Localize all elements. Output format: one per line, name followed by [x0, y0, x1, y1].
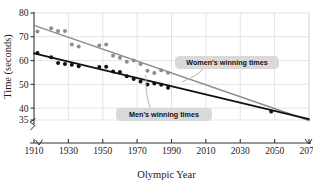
data-point [118, 70, 122, 74]
data-point [159, 68, 163, 72]
data-point [166, 86, 170, 90]
data-point [152, 81, 156, 85]
data-point [125, 60, 129, 64]
x-axis-break-zigzag [36, 140, 43, 146]
x-axis-tick-label: 2030 [231, 146, 250, 156]
olympic-winning-times-chart: 3540506070801910193019501970199020102030… [0, 0, 313, 184]
y-axis-tick-label: 80 [19, 8, 29, 18]
data-point [152, 71, 156, 75]
x-axis-tick-label: 2070 [300, 146, 314, 156]
data-point [159, 83, 163, 87]
x-axis-tick-label: 2050 [265, 146, 284, 156]
y-axis-tick-label: 50 [19, 80, 29, 90]
data-point [70, 42, 74, 46]
data-point [70, 63, 74, 67]
x-axis-tick-label: 1990 [162, 146, 181, 156]
x-axis: 191019301950197019902010203020502070 [25, 139, 314, 156]
data-point [97, 65, 101, 69]
data-point [49, 55, 53, 59]
women-callout[interactable]: Women's winning times [175, 56, 279, 82]
y-axis-tick-label: 70 [19, 32, 29, 42]
data-point [166, 71, 170, 75]
data-point [132, 59, 136, 63]
data-point [56, 61, 60, 65]
callout-label: Women's winning times [186, 58, 267, 67]
data-point [77, 64, 81, 68]
y-axis-tick-label: 60 [19, 56, 29, 66]
chart-canvas: 3540506070801910193019501970199020102030… [0, 0, 313, 184]
x-axis-title: Olympic Year [137, 169, 196, 180]
data-point [63, 62, 67, 66]
data-point [49, 26, 53, 30]
intersection-point-marker [269, 110, 273, 114]
y-axis: 354050607080 [19, 8, 36, 130]
data-point [111, 54, 115, 58]
data-point [77, 45, 81, 49]
data-point [56, 29, 60, 33]
data-point [104, 42, 108, 46]
callout-label: Men's winning times [129, 110, 199, 119]
data-point [145, 69, 149, 73]
y-axis-title: Time (seconds) [2, 34, 14, 99]
data-point [35, 51, 39, 55]
x-axis-tick-label: 1970 [128, 146, 147, 156]
x-axis-tick-label: 2010 [196, 146, 215, 156]
data-point [104, 65, 108, 69]
x-axis-tick-label: 1950 [93, 146, 112, 156]
data-point [139, 79, 143, 83]
data-point [125, 74, 129, 78]
data-point [97, 44, 101, 48]
x-axis-tick-label: 1910 [25, 146, 44, 156]
data-point [118, 56, 122, 60]
y-axis-tick-label: 35 [19, 115, 29, 125]
y-axis-tick-label: 40 [19, 104, 29, 114]
data-point [63, 29, 67, 33]
data-point [132, 77, 136, 81]
data-point [139, 62, 143, 66]
x-axis-tick-label: 1930 [59, 146, 78, 156]
data-point [35, 30, 39, 34]
data-point [111, 69, 115, 73]
